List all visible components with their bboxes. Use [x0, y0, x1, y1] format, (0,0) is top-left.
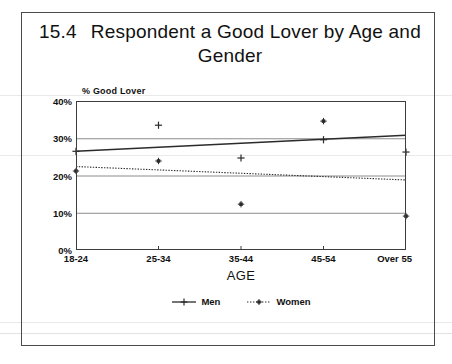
legend-item-women: Women — [246, 296, 310, 307]
plus-marker-icon — [171, 297, 197, 307]
legend-label: Men — [201, 296, 220, 307]
x-tick-label: 25-34 — [146, 253, 170, 264]
chart-legend: MenWomen — [76, 296, 406, 307]
x-tick-label: Over 55 — [377, 253, 412, 264]
x-tick-label: 35-44 — [229, 253, 253, 264]
x-tick-label: 45-54 — [311, 253, 335, 264]
x-tick-label: 18-24 — [64, 253, 88, 264]
legend-label: Women — [276, 296, 310, 307]
x-axis-title: AGE — [76, 268, 406, 283]
star-marker-icon — [246, 297, 272, 307]
chart-plot-area: % Good Lover 0%10%20%30%40% 18-2425-3435… — [0, 0, 452, 364]
plot-frame — [76, 101, 406, 250]
legend-item-men: Men — [171, 296, 220, 307]
